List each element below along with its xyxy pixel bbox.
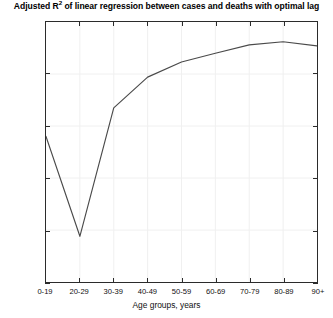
series-line-adjusted-r2 <box>46 42 317 237</box>
x-axis-title: Age groups, years <box>0 300 333 310</box>
chart-figure: Adjusted R2 of linear regression between… <box>0 0 333 318</box>
x-tick-label: 30-39 <box>104 287 123 296</box>
x-tick-label: 0-19 <box>37 287 52 296</box>
x-tick-mark <box>182 21 183 26</box>
y-tick-mark <box>45 178 50 179</box>
data-line-layer <box>46 22 317 282</box>
y-tick-mark <box>45 231 50 232</box>
x-tick-mark <box>182 278 183 283</box>
y-tick-mark <box>45 73 50 74</box>
x-tick-mark <box>113 278 114 283</box>
plot-area <box>45 21 318 283</box>
y-tick-mark <box>313 231 318 232</box>
x-tick-mark <box>284 278 285 283</box>
x-tick-mark <box>216 21 217 26</box>
x-tick-mark <box>250 278 251 283</box>
x-tick-label: 60-69 <box>206 287 225 296</box>
x-tick-mark <box>284 21 285 26</box>
x-tick-label: 90+ <box>312 287 325 296</box>
x-tick-mark <box>147 21 148 26</box>
chart-title-main: Adjusted R <box>14 1 59 11</box>
y-tick-mark <box>313 21 318 22</box>
x-tick-mark <box>79 278 80 283</box>
y-tick-mark <box>313 178 318 179</box>
x-tick-mark <box>216 278 217 283</box>
x-tick-label: 20-29 <box>69 287 88 296</box>
x-tick-label: 80-89 <box>274 287 293 296</box>
x-tick-mark <box>147 278 148 283</box>
chart-title: Adjusted R2 of linear regression between… <box>0 1 333 12</box>
y-tick-mark <box>313 283 318 284</box>
y-tick-mark <box>45 21 50 22</box>
y-tick-mark <box>313 126 318 127</box>
y-tick-mark <box>45 283 50 284</box>
y-tick-mark <box>313 73 318 74</box>
x-tick-mark <box>250 21 251 26</box>
x-tick-label: 50-59 <box>172 287 191 296</box>
y-tick-mark <box>45 126 50 127</box>
x-tick-mark <box>79 21 80 26</box>
x-tick-label: 70-79 <box>240 287 259 296</box>
chart-title-rest: of linear regression between cases and d… <box>62 1 319 11</box>
x-tick-mark <box>113 21 114 26</box>
x-tick-label: 40-49 <box>138 287 157 296</box>
